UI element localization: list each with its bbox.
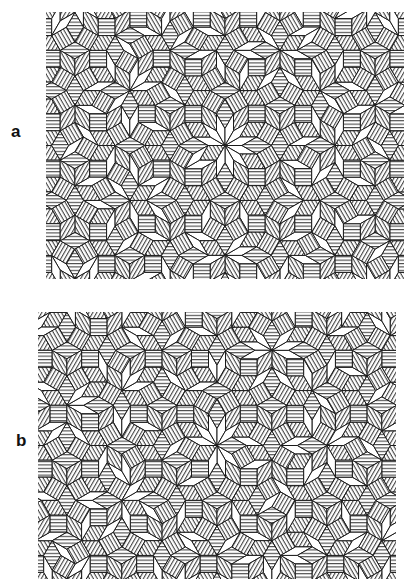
tile-rhombus-60	[231, 8, 248, 10]
tile-square	[390, 114, 407, 131]
tile-square	[382, 350, 399, 367]
tile-rhombus-30	[40, 177, 43, 200]
tile-square	[32, 382, 35, 405]
tile-rhombus-60	[113, 581, 130, 583]
tile-square	[32, 572, 35, 583]
tile-square	[145, 255, 162, 272]
tile-square	[217, 308, 240, 310]
tile-square	[90, 319, 107, 336]
tile-square	[90, 114, 107, 131]
tile-square	[40, 232, 43, 255]
tile-square	[32, 308, 35, 319]
tile-square	[32, 463, 35, 486]
tile-square	[407, 36, 410, 59]
tile-rhombus-60	[287, 581, 313, 583]
tile-square	[295, 215, 312, 232]
tile-square	[390, 50, 407, 67]
tile-square	[240, 10, 257, 27]
tile-square	[248, 169, 265, 186]
tile-square	[193, 264, 210, 281]
tile-square	[397, 405, 402, 422]
tile-square	[177, 405, 194, 422]
tile-rhombus-60	[240, 8, 266, 10]
tile-square	[390, 224, 407, 241]
tile-square	[248, 215, 265, 232]
tile-square	[350, 405, 367, 422]
tile-square	[50, 308, 67, 312]
tile-rhombus-60	[185, 281, 211, 283]
tile-square	[32, 532, 35, 555]
tile-square	[399, 336, 402, 359]
tile-square	[82, 414, 99, 431]
tile-square	[240, 264, 257, 281]
tile-square	[382, 460, 399, 477]
tile-rhombus-60	[295, 281, 321, 283]
tile-square	[295, 564, 312, 581]
tile-square	[153, 160, 170, 177]
tile-square	[32, 422, 35, 445]
tile-square	[153, 50, 170, 67]
tile-square	[185, 310, 202, 327]
tile-square	[350, 515, 367, 532]
tile-rhombus-30	[407, 50, 410, 82]
tile-square	[98, 255, 115, 272]
tile-square	[43, 50, 60, 67]
tile-square	[32, 555, 44, 572]
panel-label-b: b	[16, 431, 26, 451]
tile-square	[240, 469, 257, 486]
tile-rhombus-60	[130, 281, 156, 283]
tile-square	[295, 59, 312, 76]
tile-square	[40, 255, 52, 272]
tile-square	[43, 160, 60, 177]
tile-square	[194, 308, 217, 310]
tile-square	[130, 405, 147, 422]
tile-rhombus-60	[304, 308, 321, 310]
tile-square	[335, 460, 352, 477]
tile-square	[40, 163, 43, 186]
tile-square	[193, 10, 210, 27]
tile-rhombus-60	[32, 336, 35, 366]
tiling-panel-a	[40, 8, 410, 283]
tile-rhombus-60	[407, 105, 410, 131]
tile-rhombus-60	[295, 8, 321, 10]
tile-square	[399, 463, 402, 486]
tile-square	[43, 114, 60, 131]
tile-rhombus-60	[312, 8, 329, 10]
tile-rhombus-60	[350, 8, 376, 10]
tile-square	[240, 515, 257, 532]
tile-square	[327, 555, 344, 572]
tile-square	[40, 122, 43, 145]
tile-square	[407, 146, 410, 169]
tile-square	[185, 105, 202, 122]
tile-rhombus-60	[113, 308, 130, 310]
tile-square	[240, 359, 257, 376]
tile-square	[90, 555, 107, 572]
tile-rhombus-60	[312, 281, 329, 283]
tile-square	[138, 105, 155, 122]
tile-rhombus-30	[40, 217, 43, 240]
tile-square	[130, 515, 147, 532]
tile-square	[35, 460, 52, 477]
tile-square	[335, 350, 352, 367]
tile-rhombus-30	[399, 477, 402, 500]
tile-square	[145, 460, 162, 477]
tile-rhombus-30	[32, 517, 35, 540]
tile-square	[407, 122, 410, 145]
tile-square	[398, 255, 410, 272]
tile-rhombus-60	[397, 391, 402, 406]
tile-rhombus-60	[287, 308, 313, 310]
tile-rhombus-60	[407, 160, 410, 186]
tile-rhombus-30	[407, 177, 410, 200]
tile-square	[130, 10, 147, 27]
tile-square	[287, 405, 304, 422]
tile-square	[185, 169, 202, 186]
tile-square	[90, 160, 107, 177]
tile-square	[248, 105, 265, 122]
tile-square	[130, 308, 147, 312]
tile-square	[240, 405, 257, 422]
tile-rhombus-60	[32, 405, 35, 431]
tile-square	[399, 422, 402, 445]
tile-square	[343, 224, 360, 241]
tile-rhombus-30	[40, 50, 43, 73]
tile-rhombus-30	[407, 50, 410, 73]
